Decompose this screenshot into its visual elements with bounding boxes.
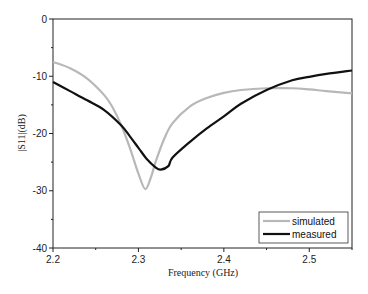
x-tick-label: 2.2 <box>46 254 60 265</box>
y-axis: 0-10-20-30-40 <box>33 14 53 254</box>
s11-frequency-chart: 0-10-20-30-40 2.22.32.42.5 Frequency (GH… <box>0 0 368 294</box>
y-tick-label: -30 <box>33 185 48 196</box>
y-tick-label: -10 <box>33 71 48 82</box>
series-layer <box>53 62 352 189</box>
y-tick-label: -20 <box>33 128 48 139</box>
legend-label-measured: measured <box>292 229 336 240</box>
legend-label-simulated: simulated <box>292 216 335 227</box>
x-tick-label: 2.5 <box>302 254 316 265</box>
x-tick-label: 2.4 <box>217 254 231 265</box>
x-axis-title: Frequency (GHz) <box>168 267 238 279</box>
y-axis-title: |S11|(dB) <box>16 114 28 152</box>
y-tick-label: 0 <box>41 14 47 25</box>
series-simulated <box>53 62 352 189</box>
legend: simulatedmeasured <box>259 212 348 243</box>
series-measured <box>53 71 352 170</box>
y-tick-label: -40 <box>33 243 48 254</box>
x-tick-label: 2.3 <box>131 254 145 265</box>
x-axis: 2.22.32.42.5 <box>46 248 352 265</box>
